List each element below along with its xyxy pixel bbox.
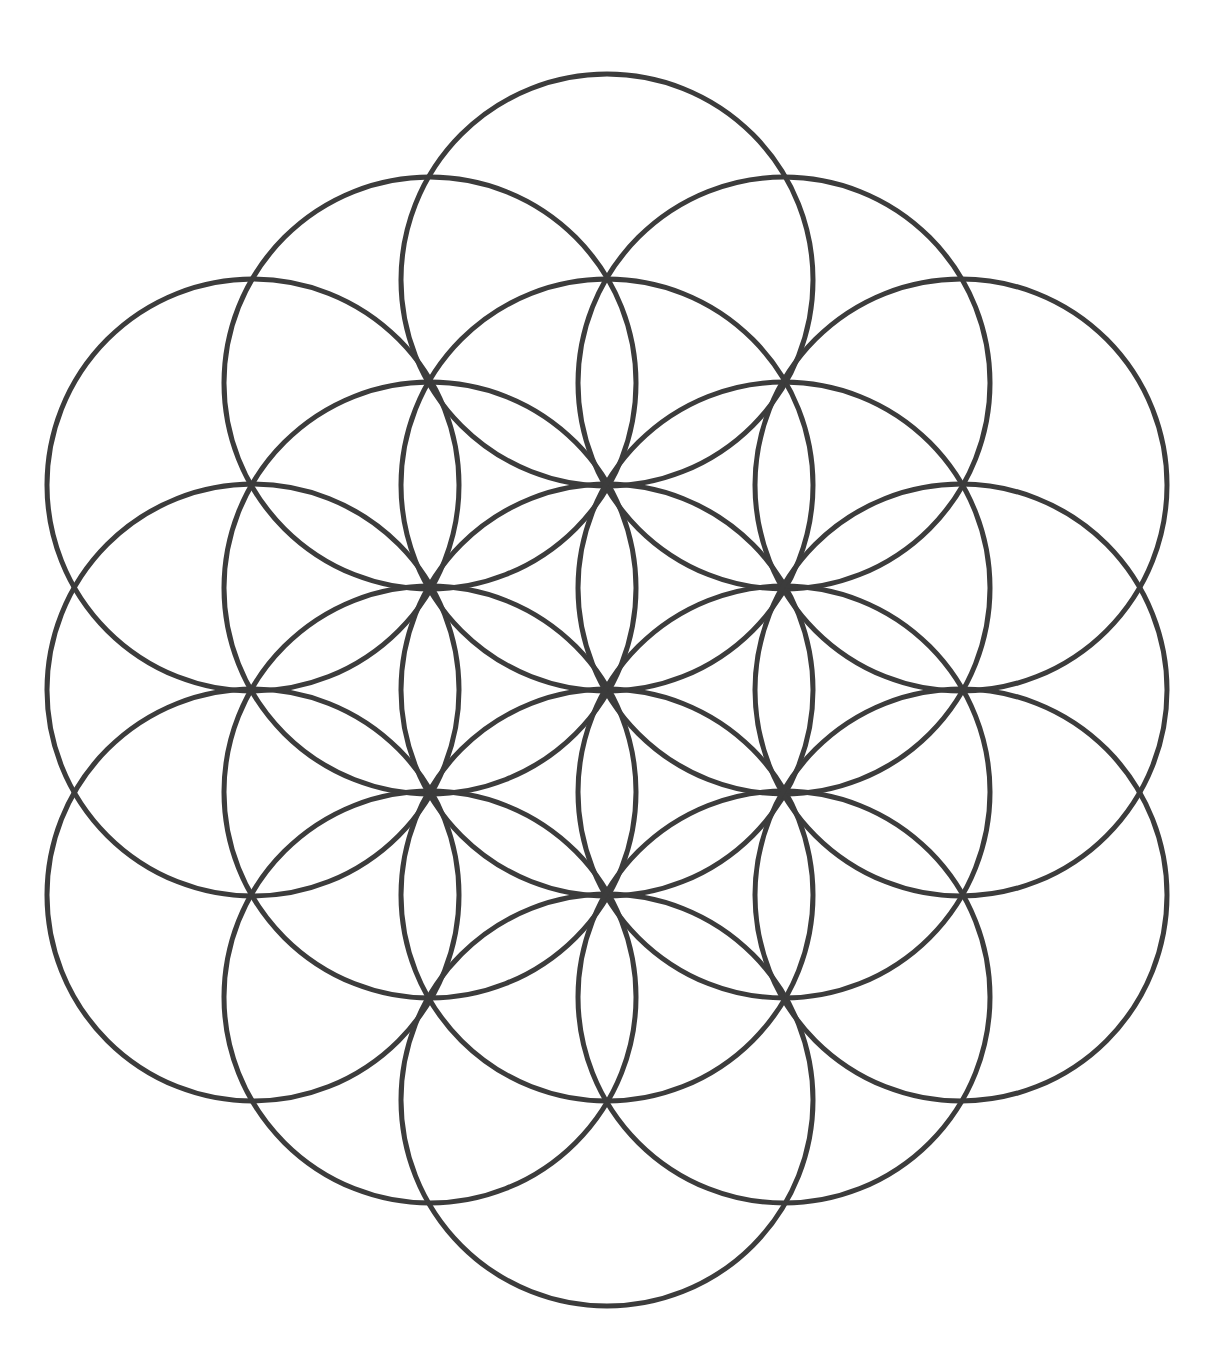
artwork-canvas	[0, 0, 1212, 1354]
flower-of-life-diagram	[0, 0, 1212, 1354]
